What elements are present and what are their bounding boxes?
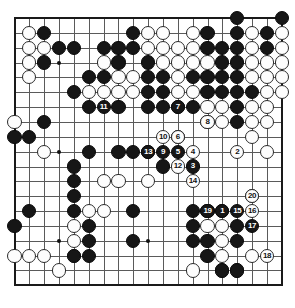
black-stone (37, 115, 51, 129)
white-stone (215, 234, 229, 248)
white-stone (171, 85, 185, 99)
black-stone (67, 159, 81, 173)
black-stone (156, 100, 170, 114)
white-stone (245, 130, 259, 144)
black-stone (126, 145, 140, 159)
white-stone (22, 55, 36, 69)
white-stone (171, 41, 185, 55)
white-stone (22, 70, 36, 84)
black-stone (200, 85, 214, 99)
white-stone (111, 85, 125, 99)
white-stone (22, 26, 36, 40)
white-stone (245, 55, 259, 69)
black-stone (200, 234, 214, 248)
white-stone (275, 55, 289, 69)
black-stone (111, 41, 125, 55)
move-number-16: 16 (245, 204, 259, 218)
move-number-11: 11 (97, 100, 111, 114)
white-stone (260, 55, 274, 69)
white-stone (215, 219, 229, 233)
black-stone (37, 55, 51, 69)
black-stone (156, 85, 170, 99)
black-stone (186, 70, 200, 84)
black-stone (230, 100, 244, 114)
black-stone (141, 55, 155, 69)
grid-line-horizontal (15, 256, 282, 257)
black-stone (111, 145, 125, 159)
black-stone (186, 100, 200, 114)
black-stone (200, 41, 214, 55)
white-stone (260, 100, 274, 114)
white-stone (67, 219, 81, 233)
black-stone (215, 85, 229, 99)
black-stone (200, 26, 214, 40)
move-number-7: 7 (171, 100, 185, 114)
move-number-13: 13 (141, 145, 155, 159)
black-stone (22, 130, 36, 144)
black-stone (7, 130, 21, 144)
black-stone (200, 249, 214, 263)
white-stone (200, 55, 214, 69)
white-stone (260, 145, 274, 159)
move-number-19: 19 (200, 204, 214, 218)
go-board-diagram: 1234567891011121314151617181920 (0, 0, 295, 308)
black-stone (230, 41, 244, 55)
white-stone (97, 204, 111, 218)
white-stone (67, 234, 81, 248)
black-stone (82, 145, 96, 159)
black-stone (230, 11, 244, 25)
black-stone (230, 70, 244, 84)
move-number-1: 1 (215, 204, 229, 218)
black-stone (230, 219, 244, 233)
white-stone (141, 174, 155, 188)
white-stone (22, 249, 36, 263)
white-stone (82, 85, 96, 99)
white-stone (200, 100, 214, 114)
black-stone (67, 41, 81, 55)
white-stone (215, 100, 229, 114)
white-stone (7, 249, 21, 263)
white-stone (37, 249, 51, 263)
white-stone (200, 219, 214, 233)
black-stone (230, 234, 244, 248)
white-stone (215, 115, 229, 129)
white-stone (82, 204, 96, 218)
black-stone (260, 41, 274, 55)
move-number-15: 15 (230, 204, 244, 218)
black-stone (141, 70, 155, 84)
white-stone (260, 115, 274, 129)
black-stone (186, 219, 200, 233)
move-number-14: 14 (186, 174, 200, 188)
white-stone (245, 26, 259, 40)
move-number-6: 6 (171, 130, 185, 144)
white-stone (37, 145, 51, 159)
star-point (146, 239, 150, 243)
black-stone (186, 204, 200, 218)
white-stone (22, 41, 36, 55)
black-stone (186, 234, 200, 248)
black-stone (52, 41, 66, 55)
board-border-bottom (14, 284, 283, 286)
white-stone (245, 41, 259, 55)
move-number-4: 4 (186, 145, 200, 159)
black-stone (67, 174, 81, 188)
move-number-9: 9 (156, 145, 170, 159)
white-stone (52, 263, 66, 277)
move-number-12: 12 (171, 159, 185, 173)
black-stone (111, 100, 125, 114)
black-stone (215, 41, 229, 55)
white-stone (156, 55, 170, 69)
white-stone (156, 41, 170, 55)
black-stone (97, 70, 111, 84)
white-stone (111, 70, 125, 84)
board-border-left (14, 17, 16, 286)
black-stone (230, 263, 244, 277)
star-point (57, 150, 61, 154)
white-stone (260, 70, 274, 84)
white-stone (275, 85, 289, 99)
white-stone (245, 70, 259, 84)
black-stone (275, 11, 289, 25)
black-stone (260, 26, 274, 40)
white-stone (171, 70, 185, 84)
grid-line-horizontal (15, 196, 282, 197)
